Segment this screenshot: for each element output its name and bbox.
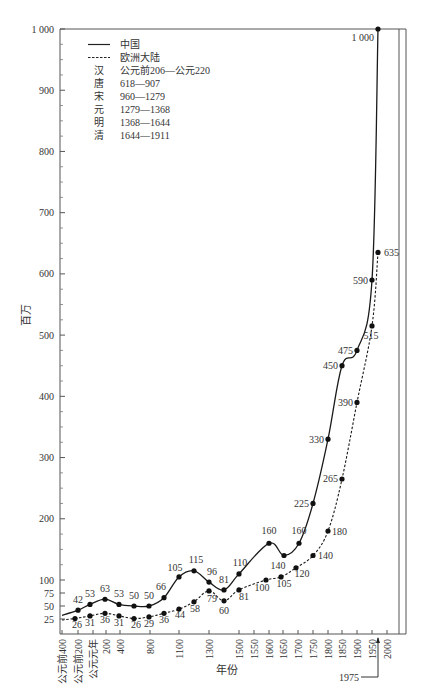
data-label: 160: [292, 525, 307, 536]
data-label: 42: [73, 594, 83, 605]
data-point: [281, 553, 286, 558]
data-label: 105: [277, 578, 292, 589]
data-point: [87, 602, 92, 607]
x-tick-label: 1900: [352, 639, 363, 659]
data-point: [325, 528, 330, 533]
data-label: 31: [114, 617, 124, 628]
data-point: [221, 598, 226, 603]
legend-dynasty-period: 公元前206—公元220: [120, 64, 210, 76]
x-tick-label: 1100: [174, 639, 185, 659]
data-point: [146, 603, 151, 608]
data-label: 44: [175, 609, 185, 620]
data-label: 79: [207, 593, 217, 604]
x-tick-label: 1950: [367, 639, 378, 659]
data-label: 590: [353, 275, 368, 286]
legend-dynasty-period: 960—1279: [120, 91, 165, 102]
legend-dynasty-name: 汉: [94, 65, 104, 76]
data-label: 225: [294, 498, 309, 509]
data-label: 36: [100, 614, 110, 625]
x-tick-label: 公元前400: [56, 639, 68, 684]
y-tick-label: 300: [39, 452, 54, 463]
plot-frame: [60, 29, 406, 634]
y-tick-label: 25: [44, 614, 54, 625]
x-tick-label: 1800: [323, 639, 334, 659]
data-point: [296, 541, 301, 546]
data-point: [236, 571, 241, 576]
x-tick-label: 200: [101, 639, 112, 654]
data-label: 1 000: [352, 32, 375, 43]
data-label: 160: [262, 525, 277, 536]
data-label: 63: [100, 583, 110, 594]
data-label: 81: [219, 574, 229, 585]
data-label: 53: [114, 588, 124, 599]
legend-dynasty-name: 唐: [94, 77, 104, 89]
population-chart: 1 000900800700600500400300200100755025 公…: [0, 0, 425, 700]
data-point: [102, 597, 107, 602]
data-label: 53: [85, 588, 95, 599]
series-europe: 2631363126293644587960811001051201401802…: [62, 247, 399, 631]
annotation-label: 1975: [339, 672, 359, 683]
data-label: 26: [131, 619, 141, 630]
data-label: 81: [239, 591, 249, 602]
x-tick-label: 公元前200: [72, 639, 84, 684]
x-tick-label: 1600: [264, 639, 275, 659]
data-point: [354, 400, 359, 405]
data-label: 105: [168, 562, 183, 573]
y-tick-label: 50: [44, 601, 54, 612]
x-tick-label: 400: [115, 639, 126, 654]
data-label: 475: [338, 345, 353, 356]
data-label: 50: [129, 590, 139, 601]
data-label: 330: [309, 434, 324, 445]
data-point: [375, 26, 380, 31]
data-label: 265: [323, 473, 338, 484]
data-label: 115: [189, 554, 204, 565]
legend-dynasty-name: 明: [94, 117, 104, 128]
data-point: [339, 476, 344, 481]
x-tick-label: 2000: [382, 639, 393, 659]
x-tick-label: 公元元年: [87, 639, 99, 679]
y-tick-label: 400: [39, 391, 54, 402]
legend-dynasty-name: 元: [94, 104, 104, 115]
y-tick-label: 1 000: [32, 24, 55, 35]
x-tick-label: 1300: [204, 639, 215, 659]
data-point: [206, 579, 211, 584]
data-label: 100: [255, 582, 270, 593]
x-tick-label: 1500: [234, 639, 245, 659]
data-label: 515: [364, 330, 379, 341]
data-label: 50: [144, 590, 154, 601]
data-label: 60: [219, 605, 229, 616]
data-point: [266, 541, 271, 546]
y-tick-label: 700: [39, 207, 54, 218]
data-label: 120: [295, 568, 310, 579]
legend-dynasty-period: 618—907: [120, 78, 160, 89]
y-tick-label: 75: [44, 588, 54, 599]
data-label: 140: [318, 550, 333, 561]
y-tick-label: 200: [39, 513, 54, 524]
data-label: 140: [271, 560, 286, 571]
data-point: [310, 553, 315, 558]
data-point: [310, 501, 315, 506]
data-point: [191, 568, 196, 573]
legend-dynasty-period: 1644—1911: [120, 130, 170, 141]
data-point: [176, 574, 181, 579]
data-point: [339, 363, 344, 368]
data-label: 450: [323, 360, 338, 371]
data-label: 31: [85, 617, 95, 628]
y-tick-label: 900: [39, 85, 54, 96]
x-tick-label: 1550: [249, 639, 260, 659]
legend-label: 中国: [120, 38, 140, 50]
data-point: [131, 603, 136, 608]
data-label: 180: [332, 526, 347, 537]
x-tick-label: 1750: [308, 639, 319, 659]
data-label: 635: [384, 247, 399, 258]
x-tick-label: 1700: [293, 639, 304, 659]
legend-dynasty-period: 1279—1368: [120, 104, 170, 115]
x-tick-label: 1850: [337, 639, 348, 659]
data-point: [221, 587, 226, 592]
data-label: 110: [233, 557, 248, 568]
x-tick-label: 1650: [278, 639, 289, 659]
data-label: 26: [72, 619, 82, 630]
data-label: 29: [144, 618, 154, 629]
y-tick-label: 500: [39, 330, 54, 341]
series-line: [62, 29, 378, 615]
